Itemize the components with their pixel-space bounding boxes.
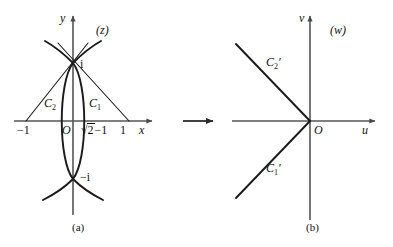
point-label-i: i [80, 58, 83, 70]
sqrt-symbol-group: √2 [80, 123, 95, 136]
u-axis-label-b: u [362, 124, 368, 136]
origin-label-b: O [314, 124, 323, 136]
curve-label-c1: C1 [89, 97, 101, 112]
caption-a: (a) [72, 222, 84, 233]
curve-c1-prime-mark: ′ [278, 161, 281, 175]
curve-label-c2: C2 [44, 97, 56, 112]
caption-b: (b) [306, 222, 319, 233]
curve-c2-base: C [44, 96, 52, 110]
y-axis-label-a: y [60, 12, 65, 24]
panel-a-axes [14, 16, 152, 215]
curve-c1-base: C [89, 96, 97, 110]
curve-c1-sub: 1 [97, 103, 101, 112]
figure-root: y (z) x O −1 √2−1 1 i −i C1 C2 (a) v (w)… [0, 0, 393, 247]
plane-label-z: (z) [96, 24, 109, 36]
ray-c1-prime [236, 121, 310, 198]
straight-line-left [26, 43, 88, 121]
arc-c2-tail-lower [43, 179, 73, 200]
tick-one: 1 [120, 124, 126, 136]
radicand-value: 2 [87, 123, 95, 136]
curve-c1-prime-base: C [266, 161, 274, 175]
point-label-minus-i: −i [80, 171, 90, 183]
x-axis-label-a: x [139, 124, 144, 136]
v-axis-label-b: v [299, 12, 304, 24]
figure-canvas [0, 0, 393, 247]
curve-c2-prime-base: C [266, 55, 274, 69]
sqrt-tick-suffix: −1 [95, 123, 108, 137]
curve-c2-prime-mark: ′ [278, 55, 281, 69]
curve-c2-sub: 2 [52, 103, 56, 112]
tick-sqrt2-minus-one: √2−1 [80, 123, 107, 136]
curve-label-c1-prime: C1′ [266, 162, 281, 177]
curve-label-c2-prime: C2′ [266, 56, 281, 71]
panel-b-axes [232, 16, 375, 220]
origin-label-a: O [62, 124, 71, 136]
tick-minus-one: −1 [17, 124, 30, 136]
plane-label-w: (w) [330, 24, 346, 36]
